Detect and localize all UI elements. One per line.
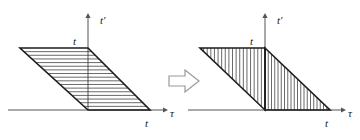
right-tprime-arrowhead [262, 13, 267, 18]
right-top-vertex-label: t [250, 35, 254, 47]
parallelogram-outline [20, 48, 150, 110]
left-bottom-vertex-label: t [145, 117, 149, 129]
right-tau-axis-label: τ [348, 107, 353, 119]
right-bottom-vertex-label: t [325, 117, 329, 129]
right-block-arrow-icon [169, 70, 199, 92]
left-tprime-arrowhead [85, 13, 90, 18]
left-top-vertex-label: t [73, 35, 77, 47]
figure-container: t′ τ t t [0, 0, 360, 140]
left-tau-axis-label: τ [170, 107, 175, 119]
left-tprime-axis-label: t′ [100, 14, 106, 26]
left-horizontal-hatching [24, 52, 146, 107]
transition-arrow-group [169, 70, 199, 92]
right-tau-arrowhead [341, 107, 346, 112]
transformation-figure: t′ τ t t [0, 0, 360, 140]
right-tprime-axis-label: t′ [277, 14, 283, 26]
left-tau-arrowhead [163, 107, 168, 112]
left-panel-parallelogram: t′ τ t t [8, 13, 175, 129]
right-panel-triangles: t′ τ t t [188, 13, 353, 129]
